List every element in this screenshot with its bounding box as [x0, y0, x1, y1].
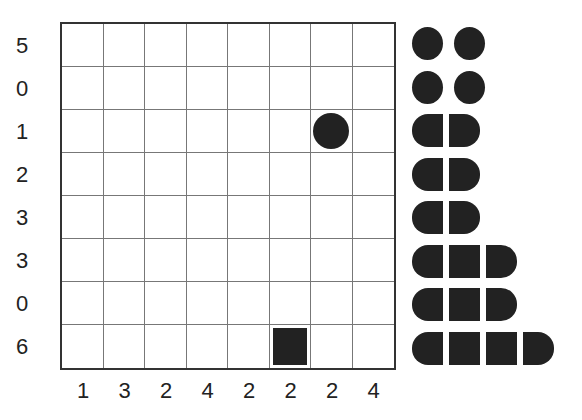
grid-cell[interactable]	[270, 325, 312, 368]
submarine-icon	[412, 27, 443, 60]
row-clue: 0	[0, 76, 44, 102]
grid-cell[interactable]	[104, 196, 146, 239]
grid-cell[interactable]	[353, 282, 395, 325]
column-clue: 1	[62, 378, 104, 404]
grid-cell[interactable]	[62, 282, 104, 325]
row-clue: 3	[0, 205, 44, 231]
grid-cell[interactable]	[145, 24, 187, 67]
ship-middle-icon	[449, 288, 480, 321]
grid-cell[interactable]	[311, 196, 353, 239]
grid-cell[interactable]	[353, 110, 395, 153]
grid-cell[interactable]	[228, 239, 270, 282]
grid-cell[interactable]	[311, 153, 353, 196]
grid-cell[interactable]	[311, 282, 353, 325]
ship-left-end-icon	[412, 245, 443, 278]
grid-cell[interactable]	[187, 325, 229, 368]
grid-cell[interactable]	[187, 196, 229, 239]
grid-cell[interactable]	[228, 153, 270, 196]
submarine-icon	[454, 71, 485, 104]
grid-cell[interactable]	[62, 325, 104, 368]
grid-cell[interactable]	[62, 196, 104, 239]
grid-cell[interactable]	[228, 196, 270, 239]
ship-middle-icon	[449, 245, 480, 278]
grid-cell[interactable]	[353, 239, 395, 282]
grid-cell[interactable]	[311, 67, 353, 110]
ship-middle-icon	[486, 332, 517, 365]
ship-right-end-icon	[449, 114, 480, 147]
grid-cell[interactable]	[270, 239, 312, 282]
grid-cell[interactable]	[187, 282, 229, 325]
grid-cell[interactable]	[104, 110, 146, 153]
ship-right-end-icon	[486, 288, 517, 321]
grid-cell[interactable]	[228, 67, 270, 110]
column-clue: 2	[145, 378, 187, 404]
row-clue: 0	[0, 291, 44, 317]
ship-right-end-icon	[449, 158, 480, 191]
ship-left-end-icon	[412, 114, 443, 147]
column-clue: 3	[104, 378, 146, 404]
grid-cell[interactable]	[187, 153, 229, 196]
submarine-icon	[412, 71, 443, 104]
grid-cell[interactable]	[270, 110, 312, 153]
grid-cell[interactable]	[270, 282, 312, 325]
grid-cell[interactable]	[145, 153, 187, 196]
grid-cell[interactable]	[187, 67, 229, 110]
grid-cell[interactable]	[311, 24, 353, 67]
submarine-icon	[313, 113, 349, 149]
grid-cell[interactable]	[353, 196, 395, 239]
grid-cell[interactable]	[145, 325, 187, 368]
grid-cell[interactable]	[353, 325, 395, 368]
column-clue: 4	[187, 378, 229, 404]
grid-cell[interactable]	[270, 24, 312, 67]
row-clue: 5	[0, 33, 44, 59]
grid-cell[interactable]	[145, 239, 187, 282]
grid-cell[interactable]	[228, 110, 270, 153]
ship-left-end-icon	[412, 288, 443, 321]
grid-cell[interactable]	[311, 239, 353, 282]
row-clue: 1	[0, 119, 44, 145]
ship-right-end-icon	[523, 332, 554, 365]
column-clue: 2	[228, 378, 270, 404]
grid-cell[interactable]	[62, 153, 104, 196]
grid-cell[interactable]	[145, 110, 187, 153]
column-clue: 2	[270, 378, 312, 404]
column-clue: 2	[311, 378, 353, 404]
grid-cell[interactable]	[353, 153, 395, 196]
row-clue: 6	[0, 334, 44, 360]
grid-cell[interactable]	[228, 24, 270, 67]
ship-left-end-icon	[412, 158, 443, 191]
grid-cell[interactable]	[62, 110, 104, 153]
grid-cell[interactable]	[104, 24, 146, 67]
grid-cell[interactable]	[104, 239, 146, 282]
grid-cell[interactable]	[62, 239, 104, 282]
ship-middle-icon	[449, 332, 480, 365]
puzzle-grid[interactable]	[60, 22, 396, 370]
grid-cell[interactable]	[353, 24, 395, 67]
grid-cell[interactable]	[104, 67, 146, 110]
grid-cell[interactable]	[104, 325, 146, 368]
ship-left-end-icon	[412, 201, 443, 234]
grid-cell[interactable]	[270, 67, 312, 110]
grid-cell[interactable]	[104, 153, 146, 196]
ship-middle-icon	[273, 328, 308, 365]
grid-cell[interactable]	[104, 282, 146, 325]
grid-cell[interactable]	[145, 196, 187, 239]
ship-right-end-icon	[486, 245, 517, 278]
grid-cell[interactable]	[270, 153, 312, 196]
grid-cell[interactable]	[187, 24, 229, 67]
grid-cell[interactable]	[228, 282, 270, 325]
grid-cell[interactable]	[145, 282, 187, 325]
grid-cell[interactable]	[311, 110, 353, 153]
grid-cell[interactable]	[187, 110, 229, 153]
grid-cell[interactable]	[228, 325, 270, 368]
ship-left-end-icon	[412, 332, 443, 365]
grid-cell[interactable]	[187, 239, 229, 282]
grid-cell[interactable]	[145, 67, 187, 110]
grid-cell[interactable]	[62, 67, 104, 110]
column-clue: 4	[353, 378, 395, 404]
grid-cell[interactable]	[353, 67, 395, 110]
row-clue: 3	[0, 248, 44, 274]
grid-cell[interactable]	[62, 24, 104, 67]
grid-cell[interactable]	[311, 325, 353, 368]
grid-cell[interactable]	[270, 196, 312, 239]
